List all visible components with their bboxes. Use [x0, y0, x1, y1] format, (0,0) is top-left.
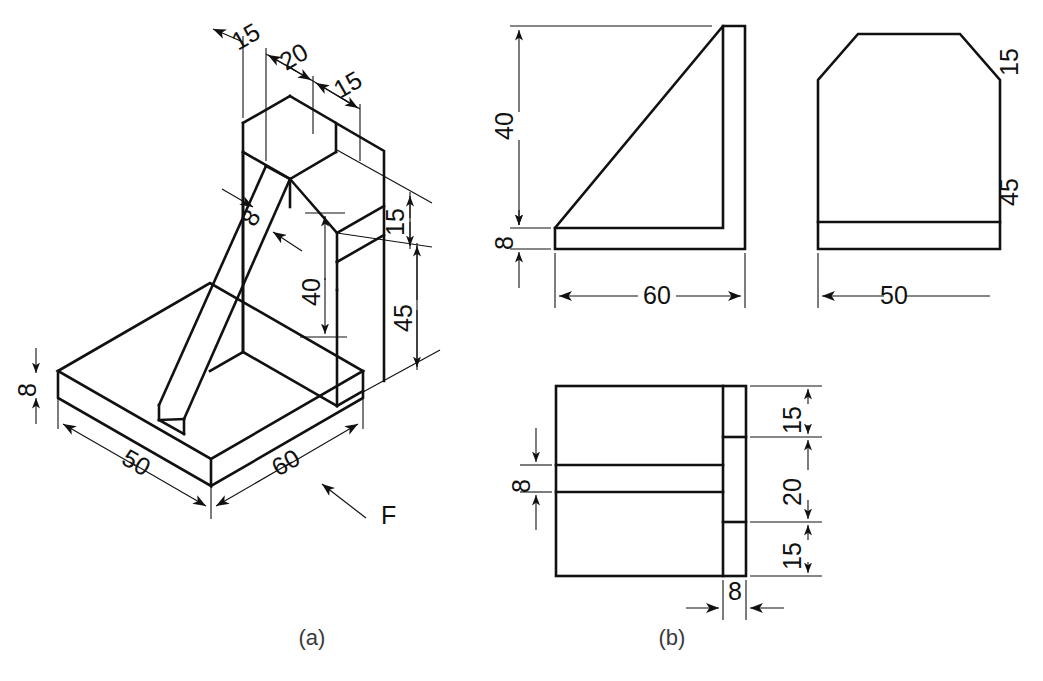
iso-vertical-wall	[210, 96, 384, 406]
top-dim-8-left-label: 8	[507, 479, 535, 493]
iso-dim-40: 40	[297, 278, 325, 306]
front-dim-8-label: 8	[490, 236, 518, 250]
top-dim-15-lower: 15	[750, 525, 822, 576]
iso-dim-50: 50	[117, 443, 155, 481]
top-dim-20-label: 20	[778, 478, 806, 506]
front-dim-60-label: 60	[643, 281, 671, 309]
iso-dim-8-base: 8	[13, 383, 41, 397]
iso-dim-15-chamfer: 15	[381, 208, 409, 236]
side-view-group: 15 45 50	[818, 34, 1023, 309]
top-view-group: 8 15 20 15	[507, 386, 822, 620]
side-dim-50: 50	[818, 253, 990, 309]
front-dim-8: 8	[490, 210, 551, 288]
top-dim-8-bottom-label: 8	[728, 577, 742, 605]
isometric-view-group: 15 20 15 8 40	[13, 17, 440, 529]
top-dim-8-bottom: 8	[686, 577, 784, 620]
front-dim-40-label: 40	[490, 112, 518, 140]
engineering-drawing-canvas: 15 20 15 8 40	[0, 0, 1043, 681]
top-dim-15-upper: 15	[750, 386, 822, 437]
iso-dim-60: 60	[266, 443, 304, 481]
caption-b: (b)	[659, 625, 686, 650]
front-dim-60: 60	[555, 253, 745, 309]
direction-marker-label: F	[381, 501, 396, 529]
iso-base-slab	[58, 283, 363, 486]
side-dim-45-label: 45	[995, 178, 1023, 206]
front-dim-40: 40	[490, 26, 712, 228]
top-dim-15-lower-label: 15	[778, 542, 806, 570]
top-dim-8-left: 8	[507, 428, 552, 530]
side-dim-15-label: 15	[995, 48, 1023, 76]
top-dim-20: 20	[750, 440, 822, 522]
iso-base-thickness-dimension: 8	[13, 348, 41, 424]
top-dim-15-upper-label: 15	[778, 406, 806, 434]
iso-top-dimensions: 15 20 15	[213, 17, 367, 161]
iso-dim-15-left: 15	[226, 17, 264, 55]
technical-drawing-page: 15 20 15 8 40	[0, 0, 1043, 681]
iso-dim-20: 20	[274, 37, 312, 75]
iso-right-dimensions: 15 45	[337, 150, 440, 392]
iso-dim-45: 45	[389, 304, 417, 332]
caption-a: (a)	[299, 625, 326, 650]
front-view-group: 40 8 60	[490, 26, 745, 309]
direction-marker-f: F	[322, 484, 396, 529]
iso-dim-15-right: 15	[328, 65, 366, 103]
side-dim-50-label: 50	[880, 281, 908, 309]
